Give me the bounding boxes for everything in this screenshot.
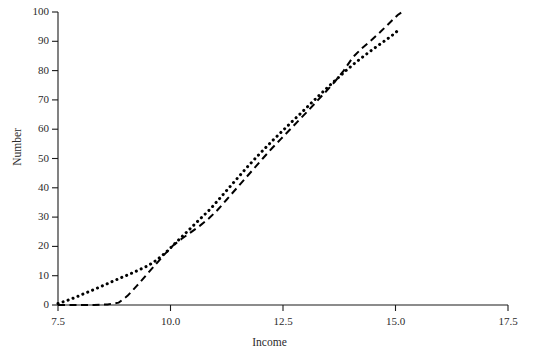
x-tick-label: 7.5 bbox=[28, 316, 88, 327]
y-tick-label: 30 bbox=[38, 211, 49, 222]
series-dotted-curve bbox=[58, 31, 398, 304]
y-tick-label: 40 bbox=[38, 182, 49, 193]
x-tick-label: 12.5 bbox=[253, 316, 313, 327]
y-tick-label: 50 bbox=[38, 153, 49, 164]
chart-plot-area bbox=[0, 0, 539, 359]
y-tick-label: 90 bbox=[38, 35, 49, 46]
x-tick-label: 10.0 bbox=[141, 316, 201, 327]
y-tick-label: 80 bbox=[38, 65, 49, 76]
y-tick-label: 20 bbox=[38, 240, 49, 251]
y-tick-label: 10 bbox=[38, 270, 49, 281]
y-axis-label: Number bbox=[7, 107, 25, 187]
axis-layer bbox=[52, 12, 508, 311]
chart-container: 0102030405060708090100 7.510.012.515.017… bbox=[0, 0, 539, 359]
x-tick-label: 17.5 bbox=[478, 316, 538, 327]
y-tick-label: 100 bbox=[33, 6, 50, 17]
y-tick-label: 0 bbox=[44, 299, 50, 310]
series-dashed-curve bbox=[58, 12, 402, 305]
x-tick-label: 15.0 bbox=[366, 316, 426, 327]
y-tick-label: 70 bbox=[38, 94, 49, 105]
x-axis-label: Income bbox=[0, 336, 539, 348]
y-tick-label: 60 bbox=[38, 123, 49, 134]
series-layer bbox=[58, 12, 402, 305]
y-axis-label-text: Number bbox=[11, 128, 23, 166]
